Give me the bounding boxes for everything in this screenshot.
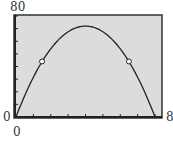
open-point <box>40 59 45 64</box>
plot-frame <box>14 15 162 118</box>
open-point <box>126 59 131 64</box>
plot <box>0 0 173 144</box>
